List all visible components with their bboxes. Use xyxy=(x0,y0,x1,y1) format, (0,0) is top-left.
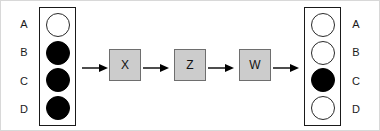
output-row-label-b: B xyxy=(347,40,365,64)
operation-label-x: X xyxy=(121,58,129,72)
operation-box-z[interactable]: Z xyxy=(174,49,206,81)
arrow-icon-4 xyxy=(273,63,299,73)
diagram-canvas: A B C D X Z W xyxy=(0,0,380,131)
input-row-label-a: A xyxy=(15,12,33,36)
input-row-label-b: B xyxy=(15,40,33,64)
output-row-label-a: A xyxy=(347,12,365,36)
input-cell-c xyxy=(46,68,70,92)
operation-box-w[interactable]: W xyxy=(239,49,271,81)
input-cell-d xyxy=(46,96,70,120)
output-cell-a xyxy=(311,13,335,37)
output-cell-d xyxy=(311,96,335,120)
input-row-label-c: C xyxy=(15,69,33,93)
output-cell-c xyxy=(311,68,335,92)
operation-label-w: W xyxy=(249,58,260,72)
input-row-labels: A B C D xyxy=(15,7,33,126)
arrow-icon-2 xyxy=(143,63,169,73)
operation-box-x[interactable]: X xyxy=(109,49,141,81)
arrow-icon-1 xyxy=(82,63,108,73)
output-row-label-c: C xyxy=(347,69,365,93)
input-row-label-d: D xyxy=(15,97,33,121)
output-row-labels: A B C D xyxy=(347,7,365,126)
input-register xyxy=(39,7,76,126)
output-row-label-d: D xyxy=(347,97,365,121)
output-cell-b xyxy=(311,41,335,65)
output-register xyxy=(304,7,341,126)
operation-label-z: Z xyxy=(186,58,193,72)
input-cell-b xyxy=(46,41,70,65)
input-cell-a xyxy=(46,13,70,37)
arrow-icon-3 xyxy=(208,63,234,73)
